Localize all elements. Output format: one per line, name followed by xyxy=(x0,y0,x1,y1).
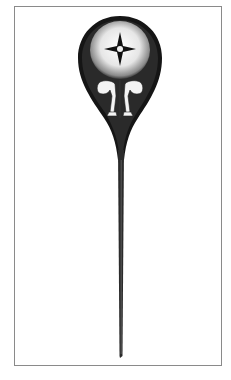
homunculus-illustration xyxy=(0,0,231,380)
